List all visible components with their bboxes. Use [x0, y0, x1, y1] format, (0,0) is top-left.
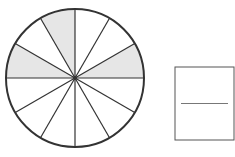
slice-divider	[75, 78, 135, 113]
center-point	[73, 76, 77, 80]
slice-divider	[41, 78, 76, 138]
slice-divider	[15, 78, 75, 113]
slice-divider	[75, 78, 110, 138]
fraction-diagram	[0, 0, 235, 157]
